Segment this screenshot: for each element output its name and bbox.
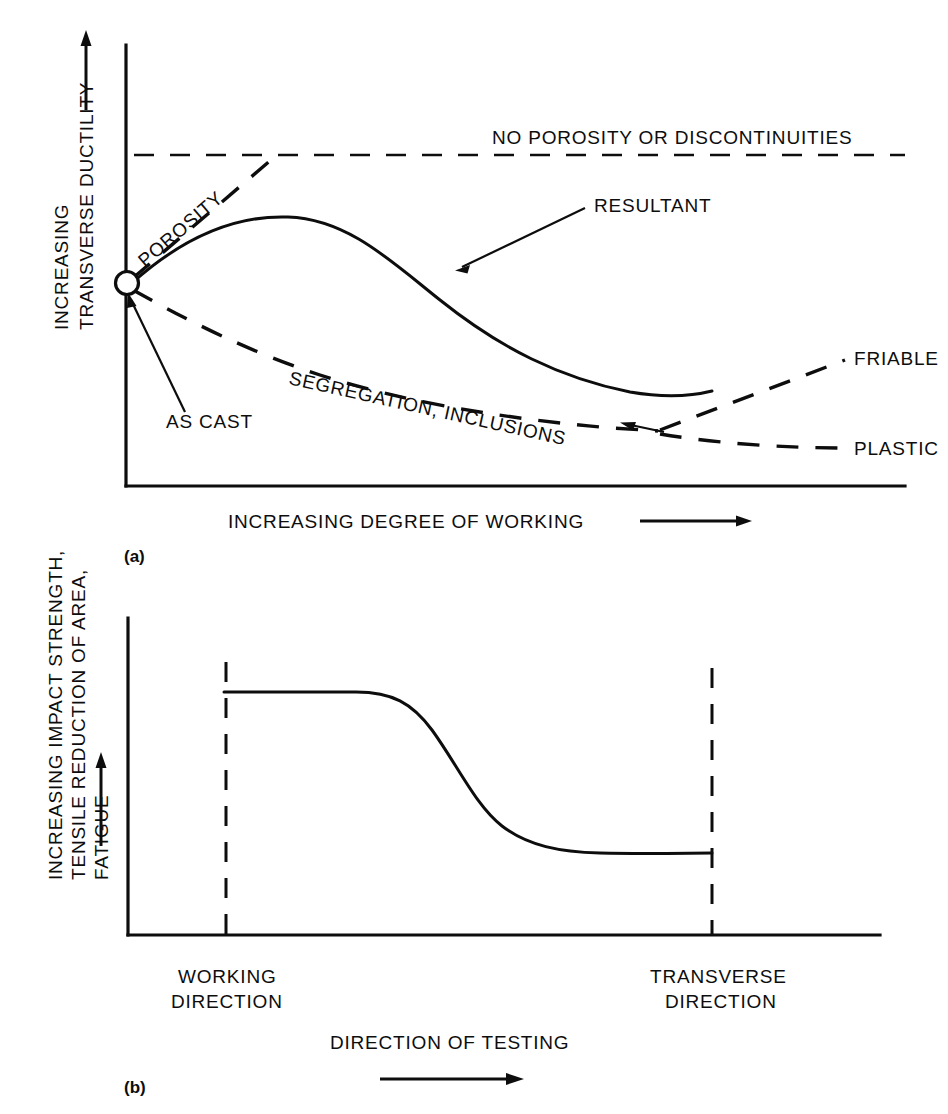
panel-b-y-axis-label-line3: FATIGUE	[91, 795, 112, 880]
technical-diagram: INCREASING TRANSVERSE DUCTILITY NO POROS…	[0, 0, 948, 1114]
panel-a-y-axis-label-line1: INCREASING	[51, 204, 72, 330]
panel-b-y-axis-label-line1: INCREASING IMPACT STRENGTH,	[45, 550, 66, 880]
transverse-direction-label-line2: DIRECTION	[665, 991, 777, 1012]
panel-a-letter: (a)	[124, 547, 145, 566]
working-direction-label-line2: DIRECTION	[171, 991, 283, 1012]
resultant-label: RESULTANT	[594, 195, 711, 216]
friable-label: FRIABLE	[854, 348, 939, 369]
as-cast-origin-marker	[116, 272, 139, 295]
figure-container: INCREASING TRANSVERSE DUCTILITY NO POROS…	[0, 0, 948, 1114]
panel-b-x-axis-label: DIRECTION OF TESTING	[330, 1032, 569, 1053]
panel-b-letter: (b)	[124, 1078, 146, 1097]
panel-b-y-axis-label-line2: TENSILE REDUCTION OF AREA,	[68, 569, 89, 880]
as-cast-label: AS CAST	[166, 411, 253, 432]
transverse-direction-label-line1: TRANSVERSE	[650, 966, 787, 987]
working-direction-label-line1: WORKING	[178, 966, 277, 987]
panel-a-x-axis-label: INCREASING DEGREE OF WORKING	[228, 511, 584, 532]
no-porosity-label: NO POROSITY OR DISCONTINUITIES	[492, 127, 852, 148]
plastic-label: PLASTIC	[854, 438, 939, 459]
panel-a-y-axis-label-line2: TRANSVERSE DUCTILITY	[76, 82, 97, 330]
